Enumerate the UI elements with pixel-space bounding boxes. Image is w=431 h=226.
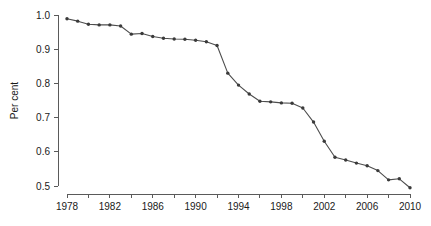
x-tick-label: 2006: [356, 201, 379, 212]
data-point: [151, 35, 154, 38]
data-point: [408, 186, 411, 189]
x-tick-label: 2002: [313, 201, 336, 212]
x-tick-label: 2010: [399, 201, 422, 212]
series-line: [67, 19, 410, 188]
data-point: [97, 23, 100, 26]
x-tick-label: 1994: [227, 201, 250, 212]
data-point: [323, 140, 326, 143]
y-tick-label: 0.8: [36, 78, 50, 89]
data-point: [376, 169, 379, 172]
x-tick-label: 1982: [99, 201, 122, 212]
data-point: [205, 40, 208, 43]
y-axis: 0.50.60.70.80.91.0: [36, 10, 58, 192]
data-point: [333, 156, 336, 159]
data-point: [387, 178, 390, 181]
data-point: [312, 120, 315, 123]
data-point: [344, 158, 347, 161]
data-point: [355, 161, 358, 164]
data-point: [258, 99, 261, 102]
y-tick-label: 0.7: [36, 112, 50, 123]
data-point: [215, 44, 218, 47]
data-point: [172, 37, 175, 40]
data-point: [76, 19, 79, 22]
x-tick-label: 1990: [185, 201, 208, 212]
data-point: [290, 102, 293, 105]
data-point: [119, 24, 122, 27]
data-point: [226, 71, 229, 74]
data-series: [65, 17, 411, 189]
data-point: [248, 92, 251, 95]
x-tick-label: 1978: [56, 201, 79, 212]
data-point: [87, 23, 90, 26]
x-axis: 197819821986199019941998200220062010: [56, 194, 422, 212]
data-point: [280, 101, 283, 104]
y-tick-label: 1.0: [36, 10, 50, 21]
x-tick-label: 1998: [270, 201, 293, 212]
data-point: [237, 83, 240, 86]
data-point: [130, 32, 133, 35]
y-tick-label: 0.9: [36, 44, 50, 55]
data-point: [65, 17, 68, 20]
y-tick-label: 0.6: [36, 146, 50, 157]
data-point: [140, 32, 143, 35]
y-axis-title: Per cent: [9, 82, 20, 119]
x-tick-label: 1986: [142, 201, 165, 212]
line-chart: 0.50.60.70.80.91.0 197819821986199019941…: [0, 0, 431, 226]
data-point: [183, 38, 186, 41]
data-point: [398, 177, 401, 180]
data-point: [194, 39, 197, 42]
data-point: [269, 100, 272, 103]
data-point: [162, 37, 165, 40]
data-point: [108, 23, 111, 26]
data-point: [365, 164, 368, 167]
chart-canvas: 0.50.60.70.80.91.0 197819821986199019941…: [0, 0, 431, 226]
data-point: [301, 106, 304, 109]
y-tick-label: 0.5: [36, 181, 50, 192]
